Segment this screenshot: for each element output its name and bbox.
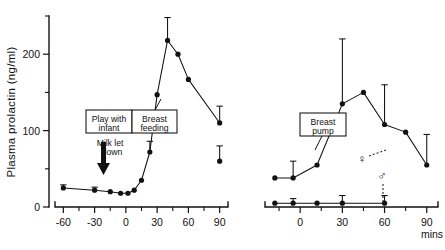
data-point xyxy=(155,92,160,97)
x-tick-label: 90 xyxy=(421,216,433,228)
data-point xyxy=(382,122,387,127)
data-point xyxy=(291,201,296,206)
data-point xyxy=(314,162,319,167)
data-point xyxy=(340,101,345,106)
data-point xyxy=(403,130,408,135)
data-point xyxy=(108,189,113,194)
female-leader xyxy=(369,150,386,156)
breast-pump-label: Breast xyxy=(311,117,336,127)
data-point xyxy=(340,201,345,206)
play-with-infant-label: infant xyxy=(98,123,120,133)
data-point xyxy=(272,201,277,206)
breast-pump-leader xyxy=(315,136,322,150)
x-axis-line xyxy=(55,202,228,207)
data-point xyxy=(291,175,296,180)
x-tick-label: 0 xyxy=(123,216,129,228)
data-point xyxy=(92,188,97,193)
x-tick-label: 60 xyxy=(379,216,391,228)
y-tick-label: 100 xyxy=(22,125,40,137)
data-point xyxy=(165,38,170,43)
prolactin-figure: 0100200Plasma prolactin (ng/ml)-60-30030… xyxy=(0,0,445,250)
play-with-infant-label: Play with xyxy=(92,114,127,124)
male-symbol-icon: ♂ xyxy=(378,169,387,183)
data-point xyxy=(314,201,319,206)
data-point xyxy=(361,90,366,95)
y-tick-label: 200 xyxy=(22,48,40,60)
data-point xyxy=(139,178,144,183)
breast-feeding-label: feeding xyxy=(140,123,168,133)
data-point xyxy=(175,52,180,57)
breast-pump-label: pump xyxy=(312,126,334,136)
x-axis-unit-label: mins xyxy=(421,228,443,240)
data-point xyxy=(186,77,191,82)
breast-feeding-label: Breast xyxy=(142,114,167,124)
y-tick-label: 0 xyxy=(34,201,40,213)
y-axis-title: Plasma prolactin (ng/ml) xyxy=(5,46,17,177)
female-symbol-icon: ♀ xyxy=(358,152,367,166)
x-tick-label: 0 xyxy=(297,216,303,228)
x-tick-label: 90 xyxy=(214,216,226,228)
data-point xyxy=(147,149,152,154)
x-tick-label: -30 xyxy=(87,216,102,228)
data-point xyxy=(132,188,137,193)
x-tick-label: 30 xyxy=(337,216,349,228)
x-tick-label: 60 xyxy=(183,216,195,228)
data-point xyxy=(125,191,130,196)
series-line xyxy=(275,92,427,178)
x-tick-label: 30 xyxy=(151,216,163,228)
data-point xyxy=(272,175,277,180)
data-point xyxy=(217,120,222,125)
chart-canvas: 0100200Plasma prolactin (ng/ml)-60-30030… xyxy=(0,0,445,250)
data-point xyxy=(118,191,123,196)
data-point xyxy=(382,201,387,206)
data-point xyxy=(217,159,222,164)
data-point xyxy=(61,185,66,190)
data-point xyxy=(424,162,429,167)
x-tick-label: -60 xyxy=(56,216,71,228)
